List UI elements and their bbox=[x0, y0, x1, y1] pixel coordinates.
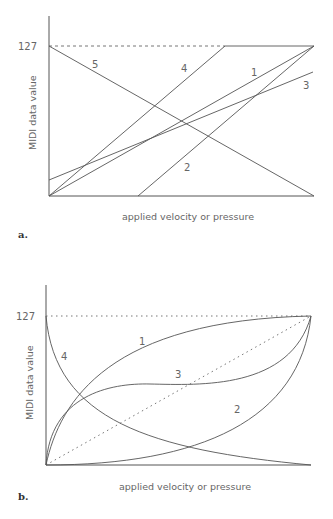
curve-a4-label: 4 bbox=[181, 63, 187, 74]
curve-b4-label: 4 bbox=[61, 351, 67, 362]
y-axis-label-b: MIDI data value bbox=[24, 345, 35, 420]
y-tick-127: 127 bbox=[18, 41, 37, 52]
panel-letter-a: a. bbox=[18, 229, 28, 240]
curve-b3-label: 3 bbox=[175, 369, 181, 380]
velocity-curves-figure: 127 5 4 1 3 2 MIDI data value applied ve… bbox=[0, 0, 333, 519]
y-axis-label-a: MIDI data value bbox=[27, 75, 38, 150]
curve-b1-label: 1 bbox=[139, 336, 145, 347]
curve-a3-label: 3 bbox=[303, 80, 309, 91]
panel-a: 127 5 4 1 3 2 MIDI data value applied ve… bbox=[18, 16, 314, 240]
x-axis-label-b: applied velocity or pressure bbox=[119, 481, 251, 492]
curve-a3 bbox=[49, 72, 313, 180]
curve-a2-label: 2 bbox=[184, 162, 190, 173]
curve-b2-label: 2 bbox=[234, 404, 240, 415]
curve-a1-label: 1 bbox=[251, 67, 257, 78]
curve-a5-label: 5 bbox=[92, 59, 98, 70]
panel-letter-b: b. bbox=[18, 491, 28, 502]
curve-a2 bbox=[138, 46, 314, 196]
panel-b: 127 4 1 3 2 MIDI data value applied velo… bbox=[16, 285, 311, 502]
y-tick-127: 127 bbox=[16, 311, 35, 322]
linear-reference-diagonal bbox=[46, 316, 311, 465]
x-axis-label-a: applied velocity or pressure bbox=[122, 211, 254, 222]
